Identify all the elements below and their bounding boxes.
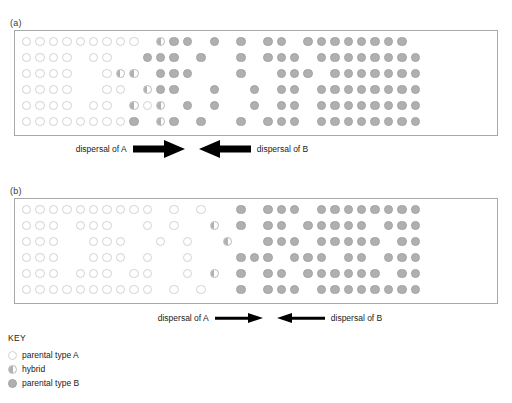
parental-type-a-dot — [183, 269, 192, 278]
parental-type-b-dot — [303, 221, 312, 230]
parental-type-a-dot — [116, 285, 125, 294]
parental-type-a-dot — [49, 253, 58, 262]
parental-type-b-dot — [370, 53, 379, 62]
parental-type-b-dot — [183, 69, 192, 78]
hybrid-dot — [129, 101, 138, 110]
parental-type-b-dot — [384, 253, 393, 262]
panel-b-dispersal-b-label: dispersal of B — [325, 314, 383, 323]
parental-type-a-dot — [116, 85, 125, 94]
parental-type-b-dot — [384, 117, 393, 126]
parental-type-b-dot — [290, 205, 299, 214]
parental-type-a-dot — [89, 253, 98, 262]
parental-type-a-dot — [76, 117, 85, 126]
parental-type-a-dot — [102, 285, 111, 294]
parental-type-b-dot — [169, 85, 178, 94]
parental-type-a-dot — [183, 237, 192, 246]
parental-type-a-dot — [116, 117, 125, 126]
parental-type-b-dot — [411, 269, 420, 278]
hybrid-dot — [116, 69, 125, 78]
parental-type-b-dot — [277, 221, 286, 230]
hybrid-zone-figure: (a) dispersal of A dispersal of B (b) di… — [0, 0, 512, 403]
parental-type-b-dot — [397, 237, 406, 246]
parental-type-a-dot — [49, 69, 58, 78]
parental-type-b-dot — [236, 253, 245, 262]
parental-type-a-dot — [102, 53, 111, 62]
parental-type-a-dot — [22, 101, 31, 110]
parental-type-b-dot — [169, 53, 178, 62]
parental-type-b-dot — [290, 101, 299, 110]
dispersal-b-arrow-left-icon — [277, 312, 325, 324]
legend: KEY parental type A hybrid parental type… — [8, 333, 79, 390]
parental-type-b-dot — [156, 69, 165, 78]
parental-type-a-dot — [62, 69, 71, 78]
parental-type-b-dot — [263, 285, 272, 294]
parental-type-b-dot — [330, 285, 339, 294]
parental-type-b-dot — [250, 85, 259, 94]
parental-type-b-dot — [357, 285, 366, 294]
parental-type-b-dot — [344, 117, 353, 126]
parental-type-b-dot — [277, 269, 286, 278]
parental-type-a-dot — [76, 285, 85, 294]
parental-type-b-dot — [236, 117, 245, 126]
parental-type-a-dot — [143, 205, 152, 214]
parental-type-b-dot — [277, 69, 286, 78]
parental-type-a-dot — [143, 269, 152, 278]
parental-type-b-dot — [357, 85, 366, 94]
panel-label-b: (b) — [10, 186, 22, 196]
parental-type-a-dot — [76, 221, 85, 230]
parental-type-b-dot — [370, 69, 379, 78]
parental-type-b-dot — [344, 101, 353, 110]
parental-type-a-dot — [62, 101, 71, 110]
parental-type-b-dot — [397, 253, 406, 262]
parental-type-a-dot — [62, 205, 71, 214]
parental-type-a-dot — [22, 221, 31, 230]
parental-type-a-dot — [62, 285, 71, 294]
parental-type-b-dot — [370, 101, 379, 110]
parental-type-b-dot — [263, 237, 272, 246]
parental-type-b-dot — [397, 101, 406, 110]
parental-type-b-dot — [183, 37, 192, 46]
parental-type-a-dot — [22, 53, 31, 62]
parental-type-b-dot — [411, 205, 420, 214]
parental-type-b-dot — [250, 101, 259, 110]
parental-type-b-dot — [384, 221, 393, 230]
parental-type-b-dot — [277, 85, 286, 94]
parental-type-a-dot — [35, 221, 44, 230]
parental-type-b-dot — [344, 269, 353, 278]
parental-type-a-swatch-icon — [8, 351, 17, 360]
parental-type-a-dot — [116, 37, 125, 46]
parental-type-a-dot — [22, 205, 31, 214]
parental-type-b-dot — [277, 53, 286, 62]
parental-type-b-dot — [384, 85, 393, 94]
parental-type-b-dot — [277, 117, 286, 126]
parental-type-b-dot — [397, 285, 406, 294]
parental-type-b-dot — [357, 237, 366, 246]
parental-type-a-dot — [89, 269, 98, 278]
parental-type-a-dot — [62, 37, 71, 46]
parental-type-a-dot — [129, 269, 138, 278]
parental-type-a-dot — [49, 237, 58, 246]
parental-type-a-dot — [49, 85, 58, 94]
parental-type-a-dot — [62, 53, 71, 62]
parental-type-b-dot — [397, 205, 406, 214]
parental-type-b-dot — [317, 101, 326, 110]
parental-type-b-dot — [236, 69, 245, 78]
parental-type-a-dot — [102, 117, 111, 126]
hybrid-dot — [156, 117, 165, 126]
parental-type-a-dot — [89, 37, 98, 46]
panel-b-plot-area — [14, 198, 498, 304]
parental-type-b-dot — [397, 117, 406, 126]
parental-type-a-dot — [129, 205, 138, 214]
parental-type-b-dot — [277, 285, 286, 294]
parental-type-b-dot — [344, 221, 353, 230]
parental-type-b-dot — [344, 37, 353, 46]
parental-type-a-dot — [102, 37, 111, 46]
parental-type-b-dot — [344, 69, 353, 78]
parental-type-b-dot — [290, 53, 299, 62]
parental-type-b-dot — [317, 221, 326, 230]
hybrid-swatch-icon — [8, 365, 17, 374]
parental-type-b-dot — [411, 53, 420, 62]
parental-type-b-dot — [411, 253, 420, 262]
parental-type-a-dot — [35, 101, 44, 110]
parental-type-b-dot — [330, 117, 339, 126]
